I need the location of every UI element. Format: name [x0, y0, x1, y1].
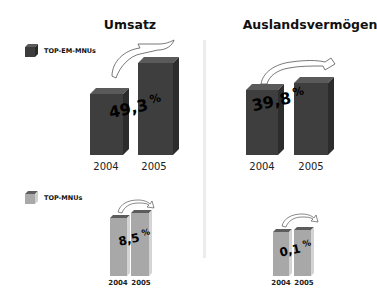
year-label-2005: 2005 [131, 279, 150, 287]
year-label-2004: 2004 [108, 279, 127, 287]
year-label-2005: 2005 [294, 279, 313, 287]
legend-item-top-mnus: TOP-MNUs [25, 191, 82, 204]
percent-sign: % [148, 91, 162, 106]
title-umsatz: Umsatz [104, 17, 156, 32]
legend-label-top-mnus: TOP-MNUs [44, 194, 82, 202]
panel-divider [203, 40, 206, 258]
legend-label-top-em-mnus: TOP-EM-MNUs [44, 47, 96, 55]
percent-sign: % [140, 227, 150, 239]
light-cube-icon [25, 191, 38, 204]
dark-cube-icon [25, 44, 38, 57]
curved-arrow-icon [280, 212, 320, 228]
percent-sign: % [301, 238, 311, 250]
year-label-2004: 2004 [93, 161, 118, 172]
year-label-2005: 2005 [141, 161, 166, 172]
year-label-2004: 2004 [249, 161, 274, 172]
year-label-2005: 2005 [298, 161, 323, 172]
title-auslandsvermoegen: Auslandsvermögen [243, 17, 377, 32]
year-label-2004: 2004 [271, 279, 290, 287]
percent-sign: % [291, 84, 305, 99]
legend-item-top-em-mnus: TOP-EM-MNUs [25, 44, 96, 57]
